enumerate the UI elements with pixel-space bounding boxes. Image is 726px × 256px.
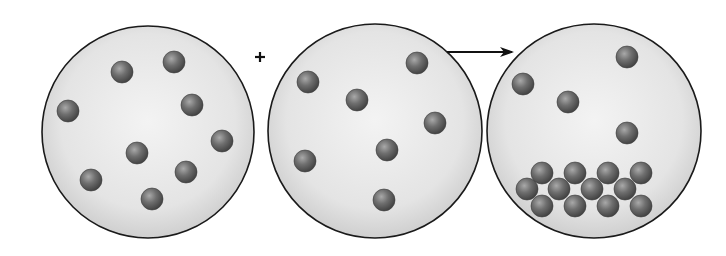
particle xyxy=(597,195,619,217)
particle xyxy=(126,142,148,164)
particle xyxy=(373,189,395,211)
particle xyxy=(175,161,197,183)
particle xyxy=(531,195,553,217)
particle xyxy=(163,51,185,73)
particle xyxy=(564,195,586,217)
particle xyxy=(181,94,203,116)
containers-group xyxy=(42,24,701,238)
particle xyxy=(614,178,636,200)
particle xyxy=(211,130,233,152)
container-reactant-b xyxy=(268,24,482,238)
particle xyxy=(597,162,619,184)
particle xyxy=(581,178,603,200)
particle xyxy=(616,122,638,144)
particle xyxy=(346,89,368,111)
particle xyxy=(512,73,534,95)
container-circle xyxy=(487,24,701,238)
particle xyxy=(630,195,652,217)
particle xyxy=(557,91,579,113)
precipitate-cluster xyxy=(516,162,652,217)
reaction-diagram xyxy=(0,0,726,256)
diagram-canvas xyxy=(0,0,726,256)
container-product xyxy=(487,24,701,238)
particle xyxy=(424,112,446,134)
particle xyxy=(406,52,428,74)
particle xyxy=(297,71,319,93)
particle xyxy=(564,162,586,184)
particle xyxy=(80,169,102,191)
particle xyxy=(111,61,133,83)
particle xyxy=(141,188,163,210)
container-reactant-a xyxy=(42,26,254,238)
particle xyxy=(616,46,638,68)
particle xyxy=(531,162,553,184)
particle xyxy=(57,100,79,122)
particle xyxy=(376,139,398,161)
particle xyxy=(630,162,652,184)
particle xyxy=(294,150,316,172)
plus-icon xyxy=(255,52,265,62)
particle xyxy=(548,178,570,200)
